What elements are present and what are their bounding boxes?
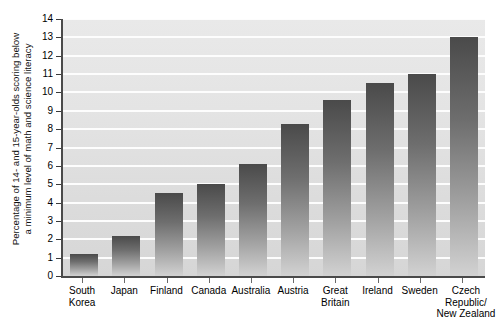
bar bbox=[408, 74, 436, 276]
bar bbox=[112, 236, 140, 276]
x-tick-mark bbox=[209, 278, 210, 283]
y-axis-title-line-1: Percentage of 14- and 15-year-olds scori… bbox=[10, 33, 23, 245]
y-tick-label: 12 bbox=[42, 51, 53, 61]
y-tick-label: 10 bbox=[42, 87, 53, 97]
y-axis-tick-labels: 01234567891011121314 bbox=[33, 12, 53, 282]
y-tick-label: 13 bbox=[42, 32, 53, 42]
x-tick-mark bbox=[251, 278, 252, 283]
x-tick-mark bbox=[378, 278, 379, 283]
y-tick-label: 4 bbox=[47, 198, 53, 208]
x-tick-mark bbox=[124, 278, 125, 283]
bar bbox=[323, 100, 351, 276]
bar-chart: Percentage of 14- and 15-year-olds scori… bbox=[0, 0, 498, 327]
x-tick-mark bbox=[462, 278, 463, 283]
y-tick-label: 2 bbox=[47, 234, 53, 244]
gridline bbox=[63, 19, 485, 20]
y-tick-label: 9 bbox=[47, 106, 53, 116]
y-tick-label: 3 bbox=[47, 216, 53, 226]
x-axis-tick-marks bbox=[61, 278, 485, 284]
gridline bbox=[63, 36, 485, 38]
bar bbox=[70, 254, 98, 276]
x-axis-category-labels: SouthKoreaJapanFinlandCanadaAustraliaAus… bbox=[61, 285, 485, 327]
y-tick-label: 5 bbox=[47, 179, 53, 189]
x-category-label-line: Republic/ bbox=[424, 297, 498, 309]
x-category-label: CzechRepublic/New Zealand bbox=[424, 285, 498, 320]
x-tick-mark bbox=[82, 278, 83, 283]
y-tick-label: 1 bbox=[47, 253, 53, 263]
x-category-label-line: Korea bbox=[52, 297, 112, 309]
bar bbox=[239, 164, 267, 276]
y-tick-label: 7 bbox=[47, 143, 53, 153]
x-tick-mark bbox=[293, 278, 294, 283]
bar bbox=[197, 184, 225, 276]
x-tick-mark bbox=[167, 278, 168, 283]
x-tick-mark bbox=[420, 278, 421, 283]
x-category-label-line: New Zealand bbox=[424, 308, 498, 320]
y-tick-label: 14 bbox=[42, 14, 53, 24]
bar bbox=[155, 193, 183, 276]
y-tick-label: 6 bbox=[47, 161, 53, 171]
y-tick-label: 8 bbox=[47, 124, 53, 134]
bar bbox=[281, 124, 309, 276]
plot-area bbox=[61, 19, 485, 276]
x-category-label-line: Czech bbox=[424, 285, 498, 297]
y-tick-label: 11 bbox=[43, 69, 53, 79]
x-category-label-line: Britain bbox=[305, 297, 365, 309]
x-tick-mark bbox=[335, 278, 336, 283]
bar bbox=[366, 83, 394, 276]
bar bbox=[450, 37, 478, 276]
y-tick-label: 0 bbox=[47, 271, 53, 281]
gridline bbox=[63, 55, 485, 57]
